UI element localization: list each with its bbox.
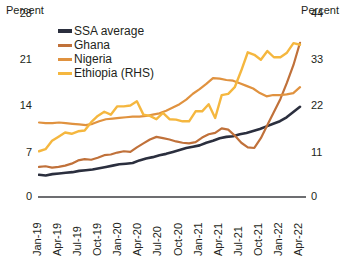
x-tick-oct-20: Oct-20 — [173, 223, 184, 256]
chart-legend: SSA averageGhanaNigeriaEthiopia (RHS) — [58, 24, 208, 80]
left-tick-14: 14 — [6, 100, 32, 111]
x-tick-jul-21: Jul-21 — [233, 226, 244, 256]
x-tick-apr-22: Apr-22 — [293, 223, 304, 256]
legend-item-ssa-average[interactable]: SSA average — [58, 24, 208, 38]
right-tick-0: 0 — [311, 191, 337, 202]
x-tick-jan-19: Jan-19 — [32, 222, 43, 256]
left-tick-21: 21 — [6, 54, 32, 65]
legend-swatch-icon — [58, 72, 72, 75]
x-tick-jul-19: Jul-19 — [72, 226, 83, 256]
x-tick-apr-20: Apr-20 — [132, 223, 143, 256]
x-tick-jan-22: Jan-22 — [273, 222, 284, 256]
x-tick-apr-19: Apr-19 — [52, 223, 63, 256]
right-tick-33: 33 — [311, 54, 337, 65]
right-tick-44: 44 — [311, 8, 337, 19]
legend-item-ghana[interactable]: Ghana — [58, 38, 208, 52]
x-tick-jan-20: Jan-20 — [112, 222, 123, 256]
x-tick-oct-21: Oct-21 — [253, 223, 264, 256]
legend-swatch-icon — [58, 29, 72, 33]
inflation-line-chart: Percent Percent 28211470 443322110 Jan-1… — [0, 0, 343, 257]
legend-item-nigeria[interactable]: Nigeria — [58, 52, 208, 66]
left-tick-7: 7 — [6, 147, 32, 158]
legend-swatch-icon — [58, 44, 72, 47]
x-axis-baseline — [38, 196, 306, 198]
x-axis-tick-labels: Jan-19Apr-19Jul-19Oct-19Jan-20Apr-20Jul-… — [38, 200, 305, 256]
legend-item-ethiopia-rhs[interactable]: Ethiopia (RHS) — [58, 66, 208, 80]
legend-label: Ethiopia (RHS) — [74, 67, 154, 80]
x-tick-jul-20: Jul-20 — [152, 226, 163, 256]
left-tick-0: 0 — [6, 191, 32, 202]
right-tick-22: 22 — [311, 100, 337, 111]
legend-label: Nigeria — [74, 53, 112, 66]
legend-label: Ghana — [74, 39, 110, 52]
right-tick-11: 11 — [311, 147, 337, 158]
legend-label: SSA average — [74, 25, 144, 38]
legend-swatch-icon — [58, 58, 72, 61]
left-tick-28: 28 — [6, 8, 32, 19]
x-tick-apr-21: Apr-21 — [213, 223, 224, 256]
x-tick-oct-19: Oct-19 — [92, 223, 103, 256]
x-tick-jan-21: Jan-21 — [193, 222, 204, 256]
series-line-ssa-average — [39, 107, 300, 176]
